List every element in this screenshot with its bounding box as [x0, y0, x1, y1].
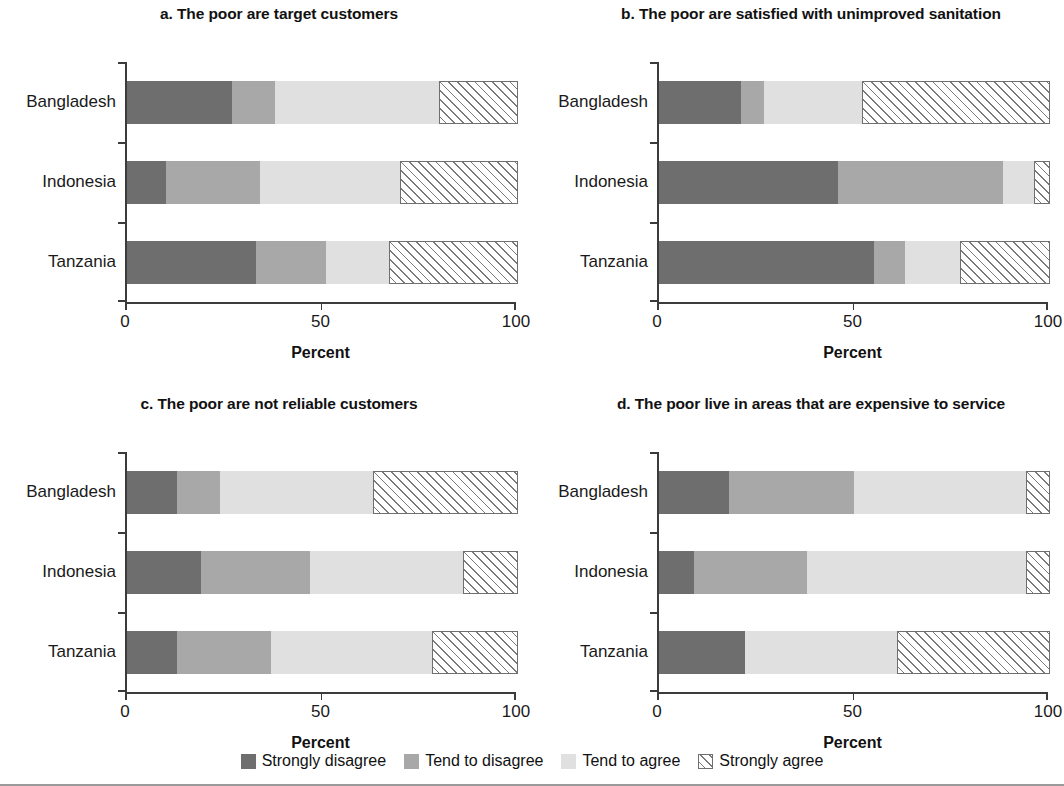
category-label-bangladesh: Bangladesh	[26, 92, 116, 112]
bar-segment-tend-to-agree	[854, 471, 1026, 514]
y-axis-tick	[118, 222, 125, 224]
x-axis-tick	[853, 692, 855, 700]
y-axis-tick	[118, 690, 125, 692]
bar-segment-tend-to-agree	[807, 551, 1026, 594]
bar-segment-tend-to-disagree	[729, 471, 854, 514]
x-axis-tick	[657, 692, 659, 700]
bar-segment-tend-to-disagree	[874, 241, 905, 284]
x-axis-tick-label: 100	[1034, 702, 1062, 722]
category-label-tanzania: Tanzania	[580, 252, 648, 272]
x-axis-tick-label: 100	[502, 312, 530, 332]
panel-d-title: d. The poor live in areas that are expen…	[572, 394, 1050, 414]
bar-segment-strongly-disagree	[659, 471, 729, 514]
category-label-bangladesh: Bangladesh	[558, 482, 648, 502]
x-axis-tick-label: 0	[652, 702, 661, 722]
bar-segment-tend-to-agree	[905, 241, 960, 284]
legend-label: Tend to disagree	[425, 752, 543, 770]
category-label-indonesia: Indonesia	[574, 562, 648, 582]
legend-swatch-tend-to-disagree-icon	[404, 754, 419, 769]
x-axis-tick-label: 100	[502, 702, 530, 722]
bar-segment-tend-to-agree	[275, 81, 439, 124]
stacked-bar	[127, 631, 518, 674]
y-axis-tick	[650, 142, 657, 144]
y-axis-tick	[118, 612, 125, 614]
bar-segment-strongly-disagree	[659, 551, 694, 594]
panel-c-title: c. The poor are not reliable customers	[40, 394, 518, 414]
legend-label: Tend to agree	[582, 752, 680, 770]
bar-segment-tend-to-disagree	[177, 471, 220, 514]
legend-item-strongly-agree: Strongly agree	[698, 752, 823, 770]
y-axis-tick	[650, 300, 657, 302]
y-axis-tick	[118, 300, 125, 302]
bar-segment-strongly-disagree	[659, 81, 741, 124]
stacked-bar	[659, 471, 1050, 514]
bar-segment-strongly-agree	[432, 631, 518, 674]
y-axis-tick	[118, 452, 125, 454]
legend-item-tend-to-agree: Tend to agree	[561, 752, 680, 770]
bar-segment-tend-to-agree	[1003, 161, 1034, 204]
y-axis-tick	[118, 62, 125, 64]
y-axis-tick	[650, 452, 657, 454]
bar-segment-tend-to-agree	[764, 81, 862, 124]
category-label-bangladesh: Bangladesh	[26, 482, 116, 502]
bar-segment-tend-to-disagree	[201, 551, 310, 594]
panel-a-title: a. The poor are target customers	[40, 4, 518, 24]
bar-segment-tend-to-agree	[326, 241, 389, 284]
y-axis-tick	[650, 612, 657, 614]
stacked-bar	[659, 81, 1050, 124]
bar-segment-strongly-disagree	[659, 631, 745, 674]
bar-segment-strongly-agree	[439, 81, 517, 124]
bar-segment-strongly-agree	[960, 241, 1050, 284]
bar-segment-tend-to-agree	[220, 471, 372, 514]
category-label-tanzania: Tanzania	[48, 252, 116, 272]
stacked-bar	[659, 551, 1050, 594]
y-axis-tick	[650, 222, 657, 224]
x-axis-tick	[321, 692, 323, 700]
x-axis-tick	[853, 302, 855, 310]
bar-segment-strongly-agree	[373, 471, 518, 514]
y-axis-tick	[650, 690, 657, 692]
x-axis-tick	[514, 692, 516, 700]
category-label-bangladesh: Bangladesh	[558, 92, 648, 112]
bar-segment-tend-to-disagree	[177, 631, 271, 674]
bar-segment-strongly-disagree	[127, 551, 201, 594]
bar-segment-tend-to-agree	[310, 551, 462, 594]
x-axis-tick-label: 0	[652, 312, 661, 332]
panel-a-plot-area: 050100BangladeshIndonesiaTanzania	[125, 62, 516, 302]
panel-c-x-axis-title: Percent	[125, 734, 516, 752]
bar-segment-strongly-disagree	[127, 81, 233, 124]
stacked-bar	[127, 471, 518, 514]
bar-segment-tend-to-disagree	[741, 81, 764, 124]
stacked-bar	[659, 161, 1050, 204]
category-label-indonesia: Indonesia	[42, 562, 116, 582]
bar-segment-tend-to-agree	[260, 161, 401, 204]
x-axis-tick	[1046, 302, 1048, 310]
bar-segment-tend-to-disagree	[694, 551, 807, 594]
panel-a-x-axis-title: Percent	[125, 344, 516, 362]
panel-b-x-axis-title: Percent	[657, 344, 1048, 362]
bar-segment-tend-to-disagree	[232, 81, 275, 124]
bar-segment-strongly-agree	[463, 551, 518, 594]
stacked-bar	[127, 81, 518, 124]
figure-panel-grid: a. The poor are target customers 050100B…	[0, 0, 1064, 786]
y-axis-tick	[650, 532, 657, 534]
legend-swatch-tend-to-agree-icon	[561, 754, 576, 769]
y-axis-tick	[118, 532, 125, 534]
chart-panel-b: b. The poor are satisfied with unimprove…	[532, 0, 1064, 380]
x-axis-tick-label: 50	[311, 702, 330, 722]
panel-b-title: b. The poor are satisfied with unimprove…	[572, 4, 1050, 24]
bar-segment-strongly-disagree	[659, 161, 839, 204]
stacked-bar	[659, 241, 1050, 284]
bar-segment-strongly-agree	[400, 161, 517, 204]
bar-segment-tend-to-agree	[745, 631, 897, 674]
chart-panel-a: a. The poor are target customers 050100B…	[0, 0, 532, 380]
bar-segment-strongly-disagree	[127, 631, 178, 674]
bar-segment-tend-to-agree	[271, 631, 431, 674]
x-axis-tick	[125, 692, 127, 700]
legend-label: Strongly disagree	[262, 752, 387, 770]
bar-segment-tend-to-disagree	[166, 161, 260, 204]
x-axis-tick-label: 50	[843, 312, 862, 332]
x-axis-tick-label: 100	[1034, 312, 1062, 332]
legend-label: Strongly agree	[719, 752, 823, 770]
category-label-tanzania: Tanzania	[48, 642, 116, 662]
